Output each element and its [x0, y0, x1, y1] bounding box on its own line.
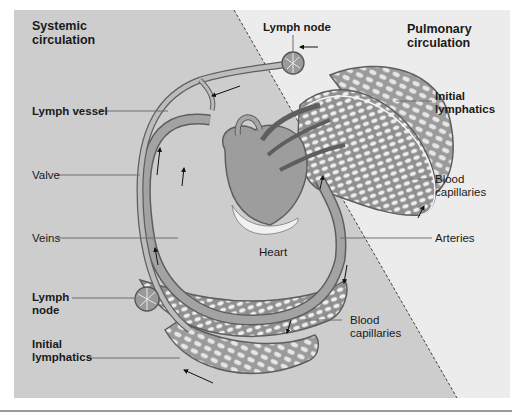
pulmonary-circulation-title: Pulmonary circulation — [407, 22, 472, 50]
lymph-node-left — [135, 287, 159, 311]
label-lymph-node-top: Lymph node — [263, 21, 331, 34]
label-initial-lymphatics-right-line2: lymphatics — [435, 103, 495, 116]
label-blood-capillaries-bottom-line1: Blood — [350, 314, 401, 327]
label-initial-lymphatics-left-line1: Initial — [32, 338, 92, 351]
label-lymph-node-left-line1: Lymph — [32, 291, 69, 304]
label-arteries: Arteries — [435, 232, 475, 245]
label-initial-lymphatics-right-line1: Initial — [435, 90, 495, 103]
systemic-title-line1: Systemic — [32, 19, 95, 33]
systemic-title-line2: circulation — [32, 33, 95, 47]
label-lymph-node-left: Lymph node — [32, 291, 69, 317]
pulmonary-title-line1: Pulmonary — [407, 22, 472, 36]
label-initial-lymphatics-left-line2: lymphatics — [32, 351, 92, 364]
label-initial-lymphatics-left: Initial lymphatics — [32, 338, 92, 364]
label-veins: Veins — [32, 232, 60, 245]
systemic-circulation-title: Systemic circulation — [32, 19, 95, 47]
label-blood-capillaries-bottom-line2: capillaries — [350, 327, 401, 340]
pulmonary-title-line2: circulation — [407, 36, 472, 50]
label-blood-capillaries-right-line2: capillaries — [435, 186, 486, 199]
label-lymph-vessel: Lymph vessel — [32, 105, 108, 118]
lymph-node-top — [282, 52, 304, 74]
label-initial-lymphatics-right: Initial lymphatics — [435, 90, 495, 116]
label-blood-capillaries-bottom: Blood capillaries — [350, 314, 401, 340]
label-lymph-node-left-line2: node — [32, 304, 69, 317]
label-heart: Heart — [259, 246, 287, 259]
label-blood-capillaries-right: Blood capillaries — [435, 173, 486, 199]
label-blood-capillaries-right-line1: Blood — [435, 173, 486, 186]
lymphatic-circulation-diagram: Systemic circulation Pulmonary circulati… — [0, 0, 518, 418]
label-valve: Valve — [32, 169, 60, 182]
bottom-divider — [0, 410, 512, 412]
